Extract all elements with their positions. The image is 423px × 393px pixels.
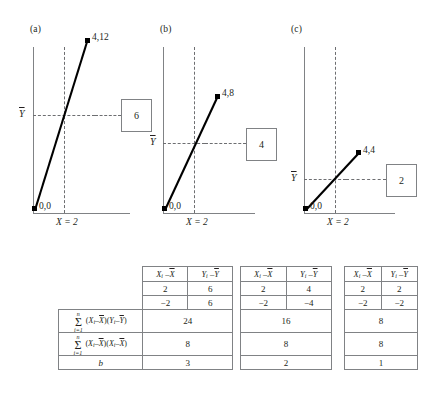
table-a-r0c0: 2 [143,282,188,296]
panel-b-xmean-label: X = 2 [186,217,208,227]
table-row: −2 6 [59,296,233,310]
table-a-sum-xx: 8 [143,333,233,356]
sum-xx-label: Σni=1 (Xi–X)(Xi–X) [59,333,143,356]
panel-c: (c) 0,0 4,4 Y X = 2 2 [290,0,423,250]
panel-c-point-marker [356,150,361,155]
panel-b-slope-line [150,0,290,250]
table-row: 8 [345,310,418,333]
table-c-header-y: Yi –Y [381,267,418,282]
sum-xy-label: Σni=1 (Xi–X)(Yi–Y) [59,310,143,333]
table-c-b: 1 [345,356,418,370]
table-b-header-x: Xi –X [241,267,287,282]
table-row: Σni=1 (Xi–X)(Xi–X) 8 [59,333,233,356]
b-label: b [59,356,143,370]
table-b-r0c1: 4 [286,282,332,296]
table-a-header-row: Xi –X Yi –Y [59,267,233,282]
panel-a-xmean-label: X = 2 [56,217,78,227]
panel-b: (b) 0,0 4,8 Y X = 2 4 [150,0,290,250]
table-b-r1c1: −4 [286,296,332,310]
table-b-r1c0: −2 [241,296,287,310]
table-row: 2 4 [241,282,332,296]
table-a-r1c0: −2 [143,296,188,310]
table-b-sum-xx: 8 [241,333,332,356]
panel-b-point-marker [215,94,220,99]
panel-a-value: 6 [134,110,139,121]
panel-a-ymean-label: Y [19,108,25,119]
table-c-r0c0: 2 [345,282,382,296]
table-row: 1 [345,356,418,370]
table-a-sum-xy: 24 [143,310,233,333]
table-c-sum-xy: 8 [345,310,418,333]
panel-b-ymean-label: Y [150,136,156,147]
panel-c-point-label: 4,4 [363,145,375,155]
panel-b-value-box: 4 [246,128,277,161]
table-row: Σni=1 (Xi–X)(Yi–Y) 24 [59,310,233,333]
table-c-r1c0: −2 [345,296,382,310]
panel-a-origin-marker [32,206,37,211]
table-a: Xi –X Yi –Y 2 6 −2 6 Σni=1 (Xi–X)(Yi–Y) … [58,266,233,370]
panel-c-origin-label: 0,0 [310,201,322,211]
regression-slope-figure: (a) 0,0 4,12 Y X = 2 6 (b [0,0,423,393]
panel-a-point-label: 4,12 [92,32,109,42]
table-a-header-y: Yi –Y [188,267,233,282]
panel-b-value: 4 [259,139,264,150]
table-c: Xi –X Yi –Y 2 2 −2 −2 8 8 1 [344,266,418,370]
table-row: 8 [241,333,332,356]
table-b: Xi –X Yi –Y 2 4 −2 −4 16 8 2 [240,266,332,370]
table-a-header-x: Xi –X [143,267,188,282]
table-row: 8 [345,333,418,356]
table-a-r0c1: 6 [188,282,233,296]
panel-c-origin-marker [303,206,308,211]
panel-c-xmean-label: X = 2 [327,217,349,227]
table-a-r1c1: 6 [188,296,233,310]
table-row: 2 6 [59,282,233,296]
table-c-header-x: Xi –X [345,267,382,282]
panel-c-slope-line [290,0,423,250]
panel-b-point-label: 4,8 [222,88,234,98]
table-row: 2 [241,356,332,370]
table-c-r0c1: 2 [381,282,418,296]
table-row: b 3 [59,356,233,370]
table-row: −2 −2 [345,296,418,310]
table-b-b: 2 [241,356,332,370]
panel-c-value: 2 [399,175,404,186]
panel-b-origin-marker [162,206,167,211]
panel-c-value-box: 2 [386,164,417,197]
panel-c-ymean-label: Y [291,172,297,183]
panel-a-value-box: 6 [121,99,152,132]
table-c-sum-xx: 8 [345,333,418,356]
table-row: 2 2 [345,282,418,296]
panel-a: (a) 0,0 4,12 Y X = 2 6 [0,0,150,250]
table-b-header-y: Yi –Y [286,267,332,282]
table-b-r0c0: 2 [241,282,287,296]
table-row: −2 −4 [241,296,332,310]
panel-a-origin-label: 0,0 [39,201,51,211]
table-b-header-row: Xi –X Yi –Y [241,267,332,282]
panel-b-origin-label: 0,0 [169,201,181,211]
table-a-b: 3 [143,356,233,370]
table-b-sum-xy: 16 [241,310,332,333]
table-row: 16 [241,310,332,333]
panel-a-point-marker [85,38,90,43]
table-c-r1c1: −2 [381,296,418,310]
table-c-header-row: Xi –X Yi –Y [345,267,418,282]
